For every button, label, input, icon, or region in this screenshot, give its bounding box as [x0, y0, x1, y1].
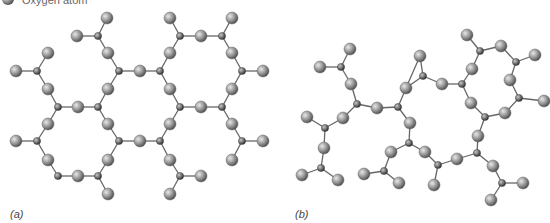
molecular-structure — [0, 0, 550, 223]
oxygen-atom — [102, 83, 114, 95]
oxygen-atom — [371, 102, 383, 114]
silicon-atom — [238, 67, 245, 74]
oxygen-atom — [226, 154, 238, 166]
silicon-atom — [94, 32, 101, 39]
oxygen-atom — [195, 30, 207, 42]
oxygen-atom — [487, 160, 499, 172]
oxygen-atom — [332, 174, 344, 186]
oxygen-atom — [71, 30, 83, 42]
silicon-atom — [321, 124, 328, 131]
oxygen-atom — [451, 153, 463, 165]
silicon-atom — [115, 137, 122, 144]
silicon-atom — [481, 113, 488, 120]
oxygen-atom — [102, 47, 114, 59]
silicon-atom — [54, 172, 61, 179]
oxygen-atom — [472, 130, 484, 142]
silicon-atom — [176, 32, 183, 39]
silicon-atom — [218, 32, 225, 39]
oxygen-atom — [414, 50, 426, 62]
oxygen-atom — [102, 118, 114, 130]
silicon-atom — [515, 94, 522, 101]
oxygen-atom — [296, 169, 308, 181]
oxygen-atom — [134, 135, 146, 147]
oxygen-atom — [465, 97, 477, 109]
oxygen-atom — [164, 83, 176, 95]
oxygen-atom — [164, 188, 176, 200]
silicon-atom — [115, 67, 122, 74]
silicon-atom — [434, 161, 441, 168]
oxygen-atom — [164, 47, 176, 59]
oxygen-atom — [358, 168, 370, 180]
silicon-atom — [156, 137, 163, 144]
oxygen-atom — [226, 12, 238, 24]
oxygen-atom — [485, 194, 497, 206]
silicon-atom — [405, 139, 412, 146]
silicon-atom — [317, 164, 324, 171]
silicon-atom — [380, 167, 387, 174]
oxygen-atom — [404, 117, 416, 129]
oxygen-atom — [195, 170, 207, 182]
oxygen-atom — [72, 170, 84, 182]
oxygen-atom — [466, 63, 478, 75]
oxygen-atom — [257, 65, 269, 77]
oxygen-atom — [517, 177, 529, 189]
oxygen-atom — [164, 118, 176, 130]
oxygen-atom — [345, 78, 357, 90]
oxygen-atom — [42, 83, 54, 95]
oxygen-atom — [385, 146, 397, 158]
oxygen-atom — [10, 65, 22, 77]
silicon-atom — [476, 47, 483, 54]
oxygen-atom — [318, 142, 330, 154]
oxygen-atom — [226, 118, 238, 130]
silicon-atom — [353, 100, 360, 107]
oxygen-atom — [504, 74, 516, 86]
silicon-atom — [176, 172, 183, 179]
silicon-atom — [33, 137, 40, 144]
oxygen-atom — [10, 135, 22, 147]
oxygen-atom — [195, 101, 207, 113]
oxygen-atom — [42, 47, 54, 59]
silicon-atom — [54, 103, 61, 110]
silicon-atom — [94, 103, 101, 110]
oxygen-atom — [226, 83, 238, 95]
atoms — [10, 12, 550, 206]
oxygen-atom — [226, 47, 238, 59]
legend-oxygen-icon — [2, 0, 14, 5]
oxygen-atom — [337, 112, 349, 124]
silicon-atom — [176, 103, 183, 110]
oxygen-atom — [499, 107, 511, 119]
oxygen-atom — [400, 82, 412, 94]
silicon-atom — [419, 72, 426, 79]
silicon-atom — [156, 67, 163, 74]
silica-structure-diagram: Oxygen atom (a) (b) — [0, 0, 550, 223]
oxygen-atom — [164, 154, 176, 166]
silicon-atom — [473, 149, 480, 156]
silicon-atom — [33, 67, 40, 74]
oxygen-atom — [314, 61, 326, 73]
oxygen-atom — [42, 154, 54, 166]
silicon-atom — [238, 137, 245, 144]
panel-label-a: (a) — [10, 208, 23, 220]
silicon-atom — [512, 58, 519, 65]
silicon-atom — [337, 63, 344, 70]
oxygen-atom — [102, 154, 114, 166]
oxygen-atom — [419, 146, 431, 158]
oxygen-atom — [436, 78, 448, 90]
oxygen-atom — [102, 188, 114, 200]
oxygen-atom — [461, 29, 473, 41]
silicon-atom — [394, 103, 401, 110]
oxygen-atom — [164, 12, 176, 24]
oxygen-atom — [42, 118, 54, 130]
oxygen-atom — [529, 49, 541, 61]
oxygen-atom — [428, 179, 440, 191]
silicon-atom — [218, 103, 225, 110]
oxygen-atom — [393, 177, 405, 189]
oxygen-atom — [72, 101, 84, 113]
silicon-atom — [94, 172, 101, 179]
oxygen-atom — [101, 12, 113, 24]
oxygen-atom — [257, 135, 269, 147]
silicon-atom — [498, 179, 505, 186]
silicon-atom — [458, 80, 465, 87]
oxygen-atom — [538, 95, 550, 107]
oxygen-atom — [495, 40, 507, 52]
